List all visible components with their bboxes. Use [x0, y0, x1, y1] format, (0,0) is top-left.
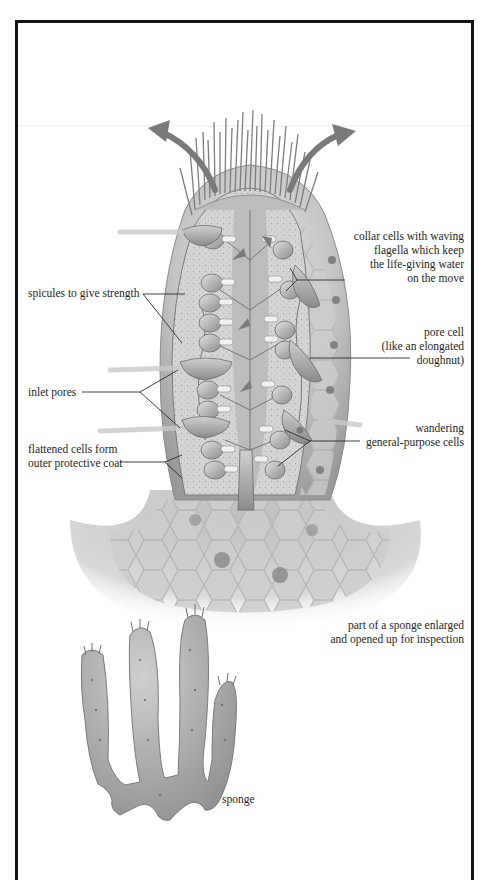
sponge-whole [81, 615, 236, 820]
label-collar-cells: collar cells with waving flagella which … [354, 229, 464, 285]
label-wandering-cells: wandering general-purpose cells [366, 421, 464, 449]
label-inlet-pores: inlet pores [28, 385, 76, 399]
caption-enlarged-section: part of a sponge enlarged and opened up … [331, 618, 465, 646]
label-spicules: spicules to give strength [28, 286, 139, 300]
body-base [70, 490, 421, 630]
label-line: wandering [366, 421, 464, 435]
label-line: the life-giving water [354, 257, 464, 271]
sponge-body-enlarged [100, 165, 360, 510]
label-line: (like an elongated [382, 339, 464, 353]
caption-line: part of a sponge enlarged [331, 618, 465, 632]
label-line: general-purpose cells [366, 435, 464, 449]
label-line: spicules to give strength [28, 286, 139, 300]
label-pore-cell: pore cell (like an elongated doughnut) [382, 325, 464, 367]
label-line: outer protective coat [28, 456, 123, 470]
label-line: on the move [354, 271, 464, 285]
label-line: inlet pores [28, 385, 76, 399]
outflow-arrowhead-right [332, 124, 356, 146]
caption-sponge: sponge [222, 792, 255, 806]
caption-line: and opened up for inspection [331, 632, 465, 646]
label-flattened-cells: flattened cells form outer protective co… [28, 442, 123, 470]
label-line: flagella which keep [354, 243, 464, 257]
label-line: collar cells with waving [354, 229, 464, 243]
label-line: doughnut) [382, 353, 464, 367]
caption-line: sponge [222, 792, 255, 806]
label-line: pore cell [382, 325, 464, 339]
label-line: flattened cells form [28, 442, 123, 456]
outflow-arrowhead-left [148, 120, 170, 142]
